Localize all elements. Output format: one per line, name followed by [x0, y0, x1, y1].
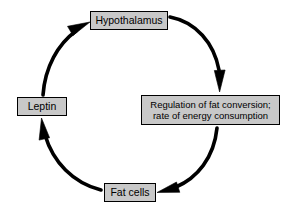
node-leptin: Leptin	[17, 97, 67, 116]
arrowhead-down-icon	[214, 70, 225, 92]
node-regulation: Regulation of fat conversion; rate of en…	[141, 95, 280, 125]
node-regulation-label: Regulation of fat conversion; rate of en…	[150, 99, 270, 121]
node-hypothalamus: Hypothalamus	[90, 11, 168, 30]
edge-fat-cells-to-leptin-path	[45, 135, 101, 190]
node-fat-cells: Fat cells	[104, 183, 156, 202]
arrowhead-left-icon	[157, 182, 180, 193]
arrowhead-up-icon	[39, 118, 50, 140]
cycle-diagram: Hypothalamus Regulation of fat conversio…	[0, 0, 301, 216]
edge-leptin-to-hypothalamus	[43, 22, 90, 95]
edge-regulation-to-fat-cells	[157, 128, 217, 193]
node-leptin-label: Leptin	[28, 100, 57, 112]
edge-regulation-to-fat-cells-path	[176, 128, 217, 187]
node-fat-cells-label: Fat cells	[110, 186, 149, 198]
edge-fat-cells-to-leptin	[39, 118, 101, 190]
node-hypothalamus-label: Hypothalamus	[95, 14, 162, 26]
edge-hypothalamus-to-regulation-path	[170, 17, 219, 70]
edge-hypothalamus-to-regulation	[170, 17, 225, 92]
edge-leptin-to-hypothalamus-path	[43, 31, 76, 95]
